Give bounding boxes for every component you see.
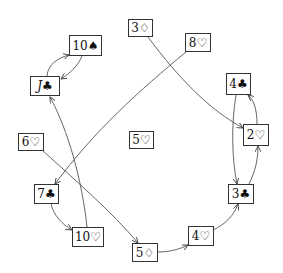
- card-rank: 5: [132, 133, 140, 147]
- card-rank: 3: [232, 187, 240, 201]
- card-node-3c: 3♣: [228, 184, 254, 204]
- card-node-2h: 2♡: [243, 124, 269, 146]
- card-rank: 4: [192, 229, 200, 243]
- card-suit-icon: ♡: [254, 128, 265, 142]
- card-suit-icon: ♢: [139, 21, 150, 35]
- card-node-7c: 7♣: [34, 184, 59, 204]
- card-suit-icon: ♡: [90, 230, 101, 244]
- card-rank: 10: [75, 230, 90, 244]
- card-node-5d: 5♢: [132, 243, 158, 262]
- card-rank: 10: [72, 39, 87, 53]
- card-suit-icon: ♣: [45, 187, 56, 201]
- card-node-3d: 3♢: [128, 19, 153, 37]
- edge-10s-jc: [61, 56, 82, 79]
- card-suit-icon: ♢: [143, 246, 154, 260]
- card-suit-icon: ♡: [140, 133, 151, 147]
- card-rank: 3: [131, 21, 139, 35]
- edge-5d-4h: [158, 245, 188, 252]
- card-suit-icon: ♣: [239, 187, 250, 201]
- edge-2h-4c: [248, 95, 257, 124]
- edge-4c-3c: [233, 95, 237, 184]
- card-rank: 5: [136, 246, 144, 260]
- card-node-4h: 4♡: [188, 226, 214, 246]
- card-suit-icon: ♡: [196, 36, 207, 50]
- card-node-10s: 10♠: [69, 35, 102, 56]
- card-node-jc: J♣: [30, 76, 60, 96]
- card-suit-icon: ♣: [237, 77, 248, 91]
- card-rank: 6: [22, 135, 30, 149]
- card-suit-icon: ♡: [29, 135, 40, 149]
- card-rank: 2: [247, 128, 255, 142]
- card-node-6h: 6♡: [18, 133, 44, 151]
- edge-8h-7c: [55, 52, 186, 184]
- card-node-10h: 10♡: [72, 227, 104, 247]
- card-node-5h: 5♡: [129, 131, 154, 149]
- card-rank: 8: [189, 36, 197, 50]
- edge-7c-10h: [51, 204, 72, 230]
- card-suit-icon: ♣: [42, 79, 53, 93]
- edge-3c-2h: [249, 146, 258, 184]
- edge-4h-3c: [213, 204, 238, 230]
- card-node-4c: 4♣: [226, 73, 251, 95]
- card-suit-icon: ♠: [88, 39, 99, 53]
- card-rank: 7: [37, 187, 45, 201]
- card-node-8h: 8♡: [185, 33, 211, 52]
- card-suit-icon: ♡: [199, 229, 210, 243]
- edge-jc-10s: [47, 55, 69, 76]
- card-rank: 4: [229, 77, 237, 91]
